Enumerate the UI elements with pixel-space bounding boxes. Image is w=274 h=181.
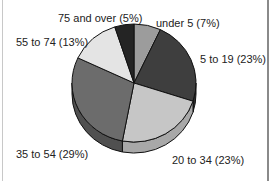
label-5-to-19: 5 to 19 (23%) bbox=[200, 53, 266, 65]
label-20-to-34: 20 to 34 (23%) bbox=[172, 154, 244, 166]
label-35-to-54: 35 to 54 (29%) bbox=[16, 148, 88, 160]
label-under-5: under 5 (7%) bbox=[156, 17, 220, 29]
label-75-and-over: 75 and over (5%) bbox=[58, 12, 142, 24]
label-55-to-74: 55 to 74 (13%) bbox=[16, 36, 88, 48]
